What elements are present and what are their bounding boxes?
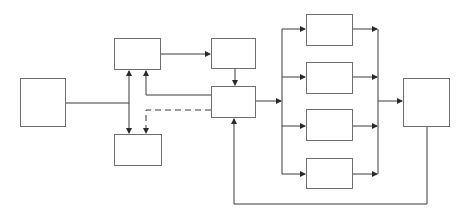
connectors [0, 0, 471, 217]
block-diagram [0, 0, 471, 217]
edge-feedback-f-to-e-arrow [234, 119, 427, 204]
edge-e-to-c-dashed-arrow [146, 110, 211, 133]
edge-e-to-b-arrow [146, 71, 211, 95]
